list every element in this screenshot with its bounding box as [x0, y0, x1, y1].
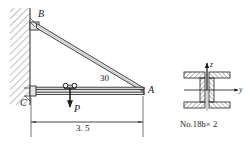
label-section-name: No.18b× 2: [180, 120, 217, 129]
wall-hatch-icon: [10, 8, 30, 105]
label-joint-c: C: [20, 98, 27, 108]
label-joint-b: B: [38, 9, 44, 19]
figure-canvas: B A C P 30 3. 5 z y No.18b× 2: [0, 0, 250, 149]
label-angle-30: 30: [100, 74, 109, 83]
label-span-dimension: 3. 5: [76, 124, 90, 133]
label-load-p: P: [74, 104, 80, 114]
label-axis-y: y: [239, 86, 242, 94]
label-axis-z: z: [210, 61, 213, 69]
diagonal-tie-member: [37, 24, 144, 92]
label-joint-a: A: [148, 85, 154, 95]
horizontal-beam-member: [31, 87, 144, 94]
